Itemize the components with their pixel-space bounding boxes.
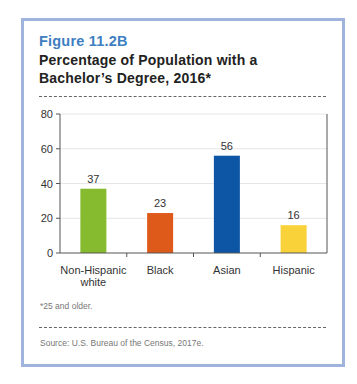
y-tick-label: 0 [47, 247, 53, 259]
category-label: Black [147, 264, 174, 276]
bar [281, 225, 307, 253]
source-note: Source: U.S. Bureau of the Census, 2017e… [40, 338, 204, 348]
data-label: 37 [87, 173, 99, 185]
footnote: *25 and older. [40, 301, 92, 311]
data-label: 23 [154, 197, 166, 209]
bar [147, 213, 173, 253]
category-label: Hispanic [273, 264, 316, 276]
category-label: white [80, 276, 107, 288]
category-label: Non-Hispanic [60, 264, 127, 276]
bar [214, 156, 240, 253]
y-tick-label: 40 [41, 178, 53, 190]
y-tick-label: 20 [41, 212, 53, 224]
bar [80, 189, 106, 253]
y-tick-label: 80 [41, 108, 53, 120]
category-label: Asian [213, 264, 241, 276]
data-label: 16 [288, 209, 300, 221]
data-label: 56 [221, 140, 233, 152]
bars [80, 156, 306, 253]
footer-divider [39, 327, 326, 328]
y-tick-label: 60 [41, 143, 53, 155]
